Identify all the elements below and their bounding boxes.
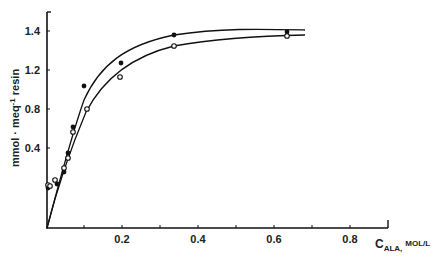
y-tick-label: 1.2: [25, 64, 40, 76]
y-tick-label: 1.4: [25, 25, 41, 37]
x-tick-label: 0.8: [342, 233, 357, 245]
y-axis-label: mmol · meq-1 resin: [8, 69, 21, 167]
y-tick-label: 0.4: [25, 142, 41, 154]
y-axis: [47, 12, 51, 228]
lower-fit-curve: [47, 35, 305, 228]
upper-fit-curve: [47, 29, 305, 228]
x-axis: [46, 220, 388, 228]
chart: 1.4 1.2 0.8 0.4 0.2 0.4 0.6 0.8 mmol · m…: [0, 0, 438, 258]
filled-points: [46, 30, 290, 191]
open-points: [46, 34, 290, 189]
y-tick-label: 0.8: [25, 103, 40, 115]
x-tick-label: 0.6: [266, 233, 281, 245]
x-tick-label: 0.2: [114, 233, 129, 245]
x-axis-label: CALA,MOL/L: [375, 237, 430, 253]
x-tick-label: 0.4: [190, 233, 206, 245]
